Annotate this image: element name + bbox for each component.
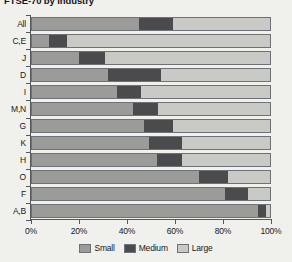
x-axis-tick-label: 100% [261,226,282,236]
bar-row [31,136,271,150]
bar-segment [67,34,271,48]
bar-segment [31,204,258,218]
chart-legend: SmallMediumLarge [0,243,292,253]
stacked-bar-chart: FTSE-70 by industry AllC,EJDIM,NGKHOFA,B… [0,0,292,262]
x-axis-tick-label: 80% [215,226,231,236]
legend-swatch-icon [124,244,136,253]
bar-row [31,153,271,167]
bar-segment [157,153,182,167]
x-axis-tick-label: 20% [71,226,87,236]
y-axis-tick-label: H [20,155,26,165]
bar-segment [49,34,67,48]
y-axis-tick-label: I [24,87,26,97]
legend-item[interactable]: Large [177,243,213,253]
y-axis-tick-label: A,B [13,206,26,216]
x-axis-tick-mark [271,219,272,224]
bar-segment [31,170,199,184]
bar-segment [117,85,141,99]
bar-segment [149,136,183,150]
bar-segment [248,187,271,201]
bar-segment [173,119,271,133]
bar-row [31,34,271,48]
bar-segment [31,102,133,116]
bar-row [31,85,271,99]
bar-segment [266,204,271,218]
y-axis-tick-label: K [21,138,26,148]
bar-segment [31,119,144,133]
bar-row [31,187,271,201]
bar-segment [173,17,271,31]
bar-row [31,51,271,65]
legend-swatch-icon [79,244,91,253]
legend-item[interactable]: Medium [124,243,168,253]
bar-row [31,204,271,218]
x-axis-tick-mark [175,219,176,224]
bar-segment [31,68,108,82]
bar-segment [133,102,158,116]
bar-segment [161,68,271,82]
legend-label: Medium [139,243,168,253]
legend-swatch-icon [177,244,189,253]
bar-segment [105,51,271,65]
bar-segment [144,119,173,133]
x-axis-tick-mark [79,219,80,224]
bar-segment [31,85,117,99]
y-axis-tick-label: G [20,121,26,131]
bar-segment [31,136,149,150]
bar-segment [31,51,79,65]
bar-segment [31,34,49,48]
x-axis-tick-mark [127,219,128,224]
bar-row [31,119,271,133]
bar-segment [258,204,266,218]
y-axis-tick-label: O [20,172,26,182]
y-axis-labels: AllC,EJDIM,NGKHOFA,B [0,0,26,262]
plot-area [31,15,271,220]
bar-segment [225,187,248,201]
bar-segment [158,102,271,116]
y-axis-tick-label: All [17,19,26,29]
y-axis-tick-label: M,N [11,104,26,114]
x-axis-tick-label: 40% [119,226,135,236]
bar-row [31,102,271,116]
x-axis-tick-label: 60% [167,226,183,236]
bar-segment [31,187,225,201]
y-axis-tick-label: C,E [12,36,26,46]
bar-segment [141,85,271,99]
bar-segment [79,51,105,65]
bar-segment [108,68,161,82]
legend-label: Small [94,243,114,253]
bar-row [31,170,271,184]
x-axis-tick-label: 0% [25,226,37,236]
legend-label: Large [192,243,213,253]
bar-segment [139,17,173,31]
bar-segment [182,153,271,167]
y-axis-tick-label: D [20,70,26,80]
bar-segment [199,170,228,184]
bar-segment [31,153,157,167]
y-axis-tick-label: F [21,189,26,199]
y-axis-tick-label: J [22,53,26,63]
bar-segment [228,170,271,184]
legend-item[interactable]: Small [79,243,114,253]
bar-segment [182,136,271,150]
bar-segment [31,17,139,31]
bar-row [31,68,271,82]
bar-row [31,17,271,31]
x-axis-tick-mark [31,219,32,224]
x-axis-tick-mark [223,219,224,224]
